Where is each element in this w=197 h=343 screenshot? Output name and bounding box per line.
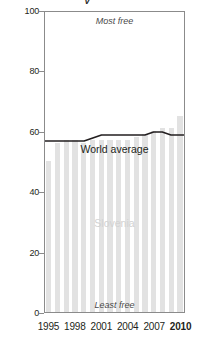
bar-2006	[142, 134, 147, 312]
plot-area: Most free Least free World average Slove…	[44, 11, 185, 313]
x-tick-label-2004: 2004	[117, 321, 138, 332]
y-tick-label-20: 20	[29, 248, 39, 258]
bar-2008	[160, 128, 165, 312]
y-tick-label-100: 100	[25, 6, 39, 16]
annotation-least-free: Least free	[94, 300, 134, 310]
economic-freedom-chart: y 100806040200 Most free Least free Worl…	[0, 0, 197, 343]
y-tick-label-60: 60	[29, 127, 39, 137]
y-tick-mark-0	[39, 313, 44, 314]
bar-1996	[55, 143, 60, 312]
x-tick-label-1998: 1998	[64, 321, 85, 332]
bar-1999	[81, 143, 86, 312]
y-axis: 100806040200	[0, 0, 44, 343]
world-average-label: World average	[80, 143, 148, 155]
bar-2009	[169, 128, 174, 312]
clipped-title-descender: y	[84, 0, 93, 4]
y-tick-label-40: 40	[29, 187, 39, 197]
x-tick-label-2010: 2010	[170, 321, 191, 332]
x-tick-label-1995: 1995	[38, 321, 59, 332]
bar-2007	[151, 131, 156, 312]
y-tick-label-80: 80	[29, 66, 39, 76]
x-axis: 199519982001200420072010	[0, 316, 197, 343]
bar-2010	[177, 116, 182, 312]
bar-1995	[46, 161, 51, 312]
bar-1998	[72, 140, 77, 312]
annotation-most-free: Most free	[96, 16, 134, 26]
x-tick-label-2007: 2007	[143, 321, 164, 332]
slovenia-label: Slovenia	[94, 217, 134, 229]
x-tick-label-2001: 2001	[91, 321, 112, 332]
bar-1997	[64, 140, 69, 312]
bar-series-slovenia	[45, 12, 184, 312]
